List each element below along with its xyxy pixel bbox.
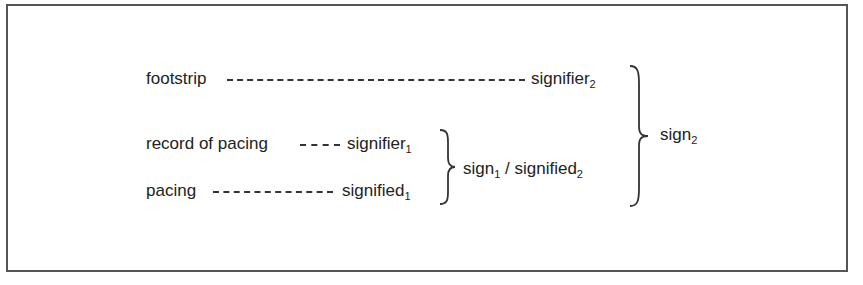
label-sign1-signified2: sign1 / signified2 [463,160,583,180]
label-signifier-1: signifier1 [347,135,412,155]
label-sign-2: sign2 [660,126,697,146]
inner-brace-icon [438,128,458,206]
dashed-connector [227,79,525,81]
diagram-frame [6,4,848,272]
outer-brace-icon [628,64,652,208]
label-pacing: pacing [146,182,196,199]
label-signified-1: signified1 [342,182,411,202]
label-record-of-pacing: record of pacing [146,135,268,152]
dashed-connector [213,191,333,193]
label-signifier-2: signifier2 [531,70,596,90]
dashed-connector [300,144,340,146]
label-footstrip: footstrip [146,70,206,87]
